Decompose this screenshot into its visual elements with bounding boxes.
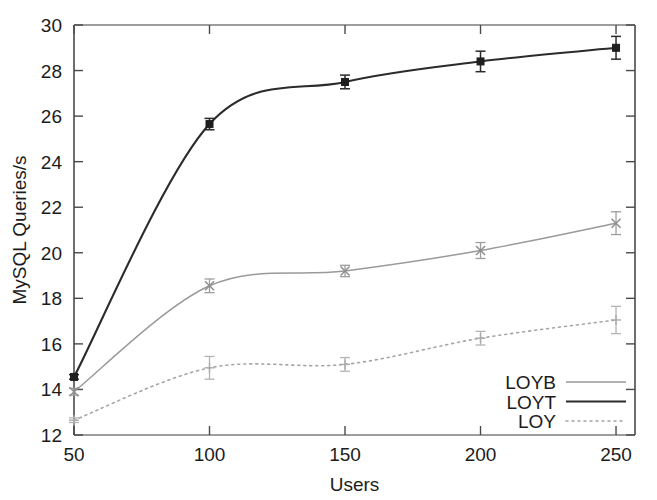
data-point-marker xyxy=(340,359,350,369)
y-axis-title: MySQL Queries/s xyxy=(9,155,30,304)
x-tick-label: 150 xyxy=(329,444,361,465)
x-tick-label: 250 xyxy=(600,444,632,465)
chart-legend: LOYBLOYTLOY xyxy=(505,372,626,432)
y-tick-label: 28 xyxy=(41,61,62,82)
y-tick-label: 24 xyxy=(41,152,63,173)
series-line xyxy=(74,48,616,377)
x-tick-label: 200 xyxy=(465,444,497,465)
legend-item-label: LOY xyxy=(518,411,556,432)
data-point-marker xyxy=(611,315,621,325)
y-tick-label: 12 xyxy=(41,425,62,446)
legend-item-label: LOYT xyxy=(506,392,556,413)
y-tick-label: 20 xyxy=(41,243,62,264)
x-tick-label: 50 xyxy=(63,444,84,465)
data-point-marker xyxy=(342,78,349,85)
y-tick-label: 16 xyxy=(41,334,62,355)
chart-figure: 1214161820222426283050100150200250UsersM… xyxy=(0,0,657,500)
x-axis-title: Users xyxy=(330,474,380,495)
y-tick-label: 26 xyxy=(41,106,62,127)
data-series-group xyxy=(69,36,621,425)
data-point-marker xyxy=(206,121,213,128)
legend-item-loyb[interactable]: LOYB xyxy=(505,372,626,393)
legend-item-loy[interactable]: LOY xyxy=(518,411,626,432)
x-tick-label: 100 xyxy=(194,444,226,465)
y-tick-label: 30 xyxy=(41,15,62,36)
chart-plot-area: 1214161820222426283050100150200250UsersM… xyxy=(0,0,657,500)
data-point-marker xyxy=(477,58,484,65)
y-tick-label: 22 xyxy=(41,197,62,218)
data-point-marker xyxy=(205,363,215,373)
legend-item-loyt[interactable]: LOYT xyxy=(506,392,626,413)
series-loyt xyxy=(69,36,621,380)
data-point-marker xyxy=(476,333,486,343)
y-tick-label: 14 xyxy=(41,379,63,400)
data-point-marker xyxy=(613,44,620,51)
data-point-marker xyxy=(69,415,79,425)
data-point-marker xyxy=(71,373,78,380)
y-tick-label: 18 xyxy=(41,288,62,309)
legend-item-label: LOYB xyxy=(505,372,556,393)
